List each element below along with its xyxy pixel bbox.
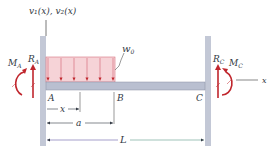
left-reaction-force-label: RA xyxy=(27,54,40,65)
point-c-label: C xyxy=(196,93,203,103)
load-label: w0 xyxy=(122,43,135,55)
right-reaction-moment-label: MC xyxy=(228,58,243,69)
left-reaction-moment-label: MA xyxy=(7,58,22,69)
a-dimension-label: a xyxy=(76,118,81,128)
right-fixed-support xyxy=(205,36,211,146)
right-reaction-moment-arrow xyxy=(222,68,232,95)
beam-diagram: v₁(x), v₂(x) w0 A B C x a L xyxy=(0,0,274,154)
right-reaction-force-label: RC xyxy=(212,54,225,65)
beam xyxy=(46,82,205,90)
load-label-leader xyxy=(115,53,124,70)
x-axis-label: x xyxy=(262,76,267,85)
point-b-label: B xyxy=(116,93,124,103)
left-reaction-moment-arrow xyxy=(12,68,27,95)
left-fixed-support xyxy=(40,36,46,146)
vertical-axis-label: v₁(x), v₂(x) xyxy=(29,6,77,16)
x-dimension-label: x xyxy=(60,104,65,114)
point-a-label: A xyxy=(47,93,55,103)
l-dimension-label: L xyxy=(119,134,127,145)
distributed-load-block xyxy=(46,57,115,82)
left-reaction-force-arrow xyxy=(30,64,36,98)
right-reaction-force-arrow xyxy=(215,64,221,98)
